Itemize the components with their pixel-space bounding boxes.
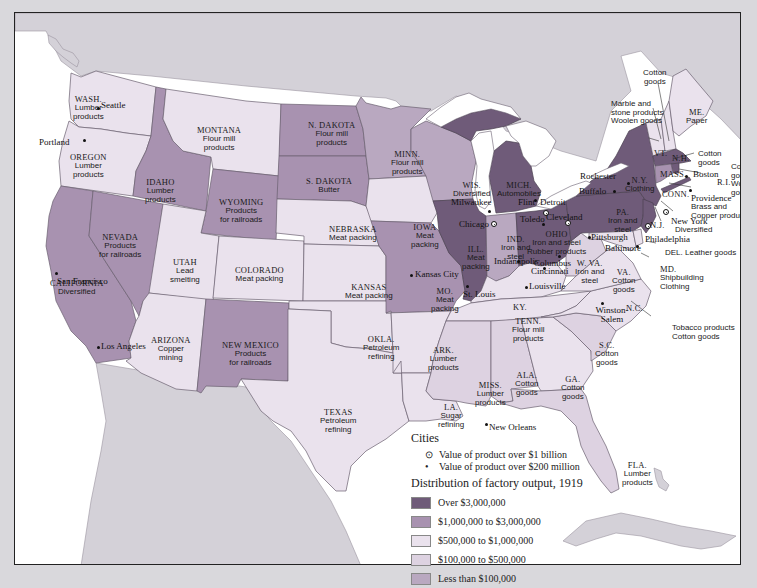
city-louisville[interactable]: Louisville — [529, 281, 566, 291]
city-marker-louisville — [525, 286, 528, 289]
city-milwaukee[interactable]: Milwaukee — [451, 197, 492, 207]
city-philadelphia[interactable]: Philadelphia — [645, 234, 690, 244]
city-pittsburgh[interactable]: Pittsburgh — [591, 232, 628, 242]
city-cincinnati[interactable]: Cincinnati — [531, 266, 569, 276]
city-marker-providence — [689, 189, 692, 192]
city-kansas-city[interactable]: Kansas City — [415, 269, 459, 279]
city-toledo[interactable]: Toledo — [520, 214, 545, 224]
swatch-under-100k — [411, 573, 431, 585]
legend-item-over-3m: Over $3,000,000 — [411, 493, 583, 512]
swatch-100k-500k — [411, 554, 431, 566]
city-rochester[interactable]: Rochester — [580, 171, 616, 181]
city-marker-boston — [685, 175, 688, 178]
city-flint[interactable]: Flint — [518, 197, 535, 207]
city-marker-new-york — [663, 209, 669, 215]
city-new-york[interactable]: New York — [671, 216, 708, 226]
state-connecticut[interactable] — [655, 164, 673, 183]
legend-item-100k-500k: $100,000 to $500,000 — [411, 550, 583, 569]
city-portland[interactable]: Portland — [39, 137, 70, 147]
city-los-angeles[interactable]: Los Angeles — [101, 341, 146, 351]
city-buffalo[interactable]: Buffalo — [579, 186, 606, 196]
city-baltimore[interactable]: Baltimore — [605, 243, 641, 253]
legend-cities-title: Cities — [411, 431, 583, 446]
city-boston[interactable]: Boston — [693, 169, 719, 179]
legend-distribution-title: Distribution of factory output, 1919 — [411, 476, 583, 491]
state-wyoming[interactable] — [201, 169, 279, 241]
long-island — [661, 177, 691, 193]
state-nebraska[interactable] — [276, 199, 379, 246]
legend-item-1m-3m: $1,000,000 to $3,000,000 — [411, 512, 583, 531]
city-san-francisco[interactable]: San Francisco — [57, 276, 108, 286]
city-marker-kansas-city — [410, 274, 413, 277]
city-st-louis[interactable]: St. Louis — [463, 289, 496, 299]
city-marker-rochester — [627, 182, 630, 185]
legend-item-under-100k: Less than $100,000 — [411, 569, 583, 588]
us-map — [15, 13, 741, 565]
city-marker-chicago — [491, 221, 497, 227]
city-chicago[interactable]: Chicago — [459, 219, 489, 229]
city-marker-san-francisco — [55, 272, 58, 275]
city-indianapolis[interactable]: Indianapolis — [494, 256, 539, 266]
city-marker-seattle — [97, 107, 100, 110]
swatch-500k-1m — [411, 535, 431, 547]
cuba-land — [563, 513, 736, 549]
city-winston-salem[interactable]: Winston-Salem — [587, 306, 637, 324]
bahamas-island — [654, 468, 669, 491]
city-marker-new-orleans — [485, 423, 488, 426]
swatch-over-3m — [411, 497, 431, 509]
state-north-dakota[interactable] — [279, 104, 366, 156]
map-frame: WASH.Lumberproducts OREGONLumberproducts… — [14, 12, 741, 565]
state-kansas[interactable] — [303, 244, 386, 301]
city-marker-milwaukee — [488, 210, 491, 213]
city-cleveland[interactable]: Cleveland — [546, 212, 583, 222]
city-detroit[interactable]: Detroit — [540, 197, 566, 207]
city-marker-philadelphia — [645, 223, 651, 229]
large-city-icon: ⊙ — [425, 449, 439, 460]
city-marker-portland — [83, 139, 86, 142]
city-providence[interactable]: Providence — [691, 193, 732, 203]
legend-item-500k-1m: $500,000 to $1,000,000 — [411, 531, 583, 550]
state-south-dakota[interactable] — [277, 156, 369, 206]
legend-city-small: •Value of product over $200 million — [425, 460, 583, 472]
small-city-icon: • — [425, 461, 439, 472]
swatch-1m-3m — [411, 516, 431, 528]
city-marker-buffalo — [613, 190, 616, 193]
map-legend: Cities ⊙Value of product over $1 billion… — [411, 431, 583, 588]
legend-city-large: ⊙Value of product over $1 billion — [425, 448, 583, 460]
city-seattle[interactable]: Seattle — [101, 100, 126, 110]
state-colorado[interactable] — [213, 236, 304, 301]
city-marker-los-angeles — [97, 346, 100, 349]
city-marker-st-louis — [466, 285, 469, 288]
